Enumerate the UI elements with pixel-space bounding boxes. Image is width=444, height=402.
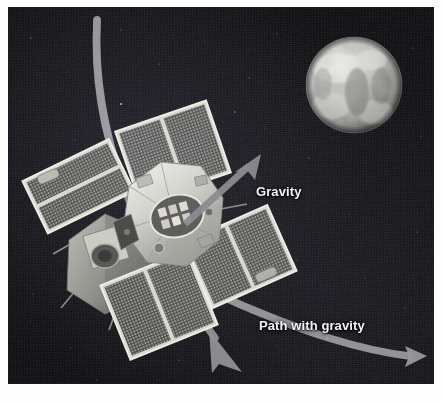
- label-gravity: Gravity: [256, 184, 302, 199]
- label-path-with-gravity: Path with gravity: [259, 318, 365, 333]
- space-scene-panel: Gravity Path with gravity Path without g…: [9, 8, 433, 383]
- label-path-without-gravity: Path without gravity: [122, 353, 201, 383]
- figure-root: Gravity Path with gravity Path without g…: [0, 0, 444, 402]
- scene-illustration: [9, 8, 433, 383]
- earth-globe: [306, 37, 402, 133]
